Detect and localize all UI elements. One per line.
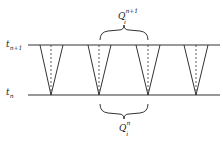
label-sub: n bbox=[10, 92, 14, 99]
label-sub: n+1 bbox=[10, 44, 23, 51]
label-Q-n-plus-1: Qn+1i bbox=[118, 10, 140, 23]
cone-1 bbox=[40, 45, 63, 95]
cone-4 bbox=[184, 45, 208, 95]
cone-2 bbox=[88, 45, 111, 95]
label-t-n-plus-1: tn+1 bbox=[6, 40, 22, 51]
brace-top bbox=[100, 25, 148, 40]
brace-bottom bbox=[100, 104, 148, 119]
label-sup: n bbox=[126, 119, 130, 126]
label-Q-n: Qni bbox=[119, 122, 132, 135]
label-t-n: tn bbox=[6, 88, 14, 99]
label-sub: i bbox=[124, 18, 126, 25]
diagram-canvas bbox=[0, 0, 223, 143]
cone-3 bbox=[136, 45, 160, 95]
label-sub: i bbox=[126, 130, 128, 137]
label-sup: n+1 bbox=[125, 7, 138, 14]
